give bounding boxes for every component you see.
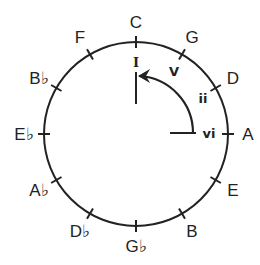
progression-arc: [139, 76, 193, 133]
circle-of-fifths-diagram: CGDAEBG♭D♭A♭E♭B♭F I V ii vi: [0, 0, 260, 265]
note-label: A♭: [29, 181, 48, 200]
note-label: B♭: [29, 69, 48, 88]
note-label: G♭: [125, 237, 146, 256]
note-label: C: [130, 13, 142, 32]
tick-4: [210, 177, 220, 183]
degree-V: V: [169, 64, 179, 79]
note-label: A: [242, 125, 254, 144]
note-label: B: [186, 222, 197, 241]
tick-7: [87, 208, 93, 218]
note-label: E: [227, 181, 238, 200]
tick-1: [179, 49, 185, 59]
note-label: G: [185, 28, 198, 47]
note-label: F: [75, 28, 85, 47]
tick-8: [51, 177, 61, 183]
note-label: D♭: [70, 222, 90, 241]
tick-10: [51, 85, 61, 91]
tick-2: [210, 85, 220, 91]
degree-vi: vi: [203, 126, 216, 141]
note-labels: CGDAEBG♭D♭A♭E♭B♭F: [14, 13, 254, 256]
note-label: D: [227, 69, 239, 88]
tick-11: [87, 49, 93, 59]
arrow-head-icon: [138, 69, 150, 83]
tick-5: [179, 208, 185, 218]
note-label: E♭: [14, 125, 33, 144]
degree-ii: ii: [199, 91, 208, 106]
degree-I: I: [133, 55, 139, 70]
